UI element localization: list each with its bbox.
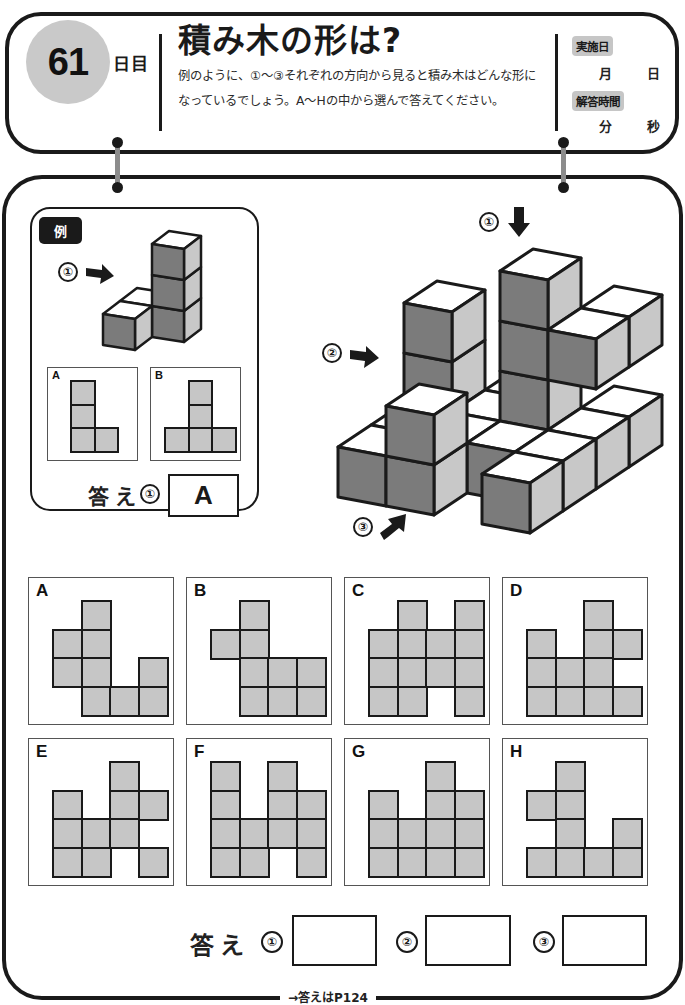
option-b[interactable]: B [186,577,332,725]
grid-cell [368,686,399,717]
grid-cell [52,657,83,688]
grid-cell [612,686,643,717]
answer-marker-2: ② [396,931,418,953]
grid-cell [425,847,456,878]
grid-cell [109,818,140,849]
grid-cell [612,818,643,849]
grid-cell [454,600,485,631]
grid-cell [239,686,270,717]
grid-cell [368,847,399,878]
arrow-down-icon [508,207,530,237]
answer-marker-1: ① [261,931,283,953]
grid-cell [267,818,298,849]
option-label: A [36,581,48,601]
grid-cell [454,657,485,688]
answer-box-3[interactable] [562,915,647,966]
grid-cell [239,657,270,688]
grid-cell [526,629,557,660]
grid-cell [526,790,557,821]
grid-cell [368,657,399,688]
option-f[interactable]: F [186,738,332,886]
grid-cell [52,818,83,849]
option-c[interactable]: C [344,577,490,725]
grid-cell [555,790,586,821]
grid-cell [210,790,241,821]
grid-cell [109,761,140,792]
grid-cell [210,761,241,792]
grid-cell [239,629,270,660]
grid-cell [583,600,614,631]
grid-cell [555,761,586,792]
option-label: B [194,581,206,601]
grid-cell [612,629,643,660]
grid-cell [425,629,456,660]
grid-cell [296,790,327,821]
option-g[interactable]: G [344,738,490,886]
grid-cell [368,790,399,821]
grid-cell [267,657,298,688]
grid-cell [368,818,399,849]
grid-cell [368,629,399,660]
direction-marker-1: ① [479,212,499,232]
grid-cell [454,790,485,821]
grid-cell [526,657,557,688]
answer-box-2[interactable] [425,915,511,966]
grid-cell [296,847,327,878]
grid-cell [454,818,485,849]
grid-cell [239,847,270,878]
grid-cell [138,790,169,821]
option-label: D [510,581,522,601]
grid-cell [296,657,327,688]
arrow-up-right-icon [380,512,408,540]
grid-cell [583,629,614,660]
grid-cell [555,657,586,688]
grid-cell [81,686,112,717]
grid-cell [267,790,298,821]
grid-cell [296,818,327,849]
grid-cell [138,847,169,878]
grid-cell [210,847,241,878]
grid-cell [526,847,557,878]
option-a[interactable]: A [28,577,174,725]
option-e[interactable]: E [28,738,174,886]
grid-cell [425,818,456,849]
grid-cell [52,790,83,821]
grid-cell [239,818,270,849]
answer-marker-3: ③ [533,931,555,953]
grid-cell [526,686,557,717]
answer-page-reference[interactable]: →答えはP124 [280,988,376,1005]
grid-cell [52,629,83,660]
grid-cell [210,818,241,849]
grid-cell [267,686,298,717]
grid-cell [583,686,614,717]
grid-cell [425,657,456,688]
grid-cell [81,818,112,849]
grid-cell [81,600,112,631]
option-label: G [352,742,365,762]
grid-cell [397,657,428,688]
answer-label: 答え [190,926,250,961]
grid-cell [109,790,140,821]
grid-cell [454,686,485,717]
grid-cell [397,818,428,849]
grid-cell [210,629,241,660]
option-label: H [510,742,522,762]
answer-box-1[interactable] [292,915,377,966]
option-d[interactable]: D [502,577,648,725]
grid-cell [612,847,643,878]
grid-cell [397,847,428,878]
grid-cell [555,686,586,717]
grid-cell [81,629,112,660]
grid-cell [138,686,169,717]
grid-cell [555,818,586,849]
grid-cell [425,761,456,792]
option-h[interactable]: H [502,738,648,886]
option-label: E [36,742,47,762]
grid-cell [583,847,614,878]
direction-marker-2: ② [322,343,342,363]
grid-cell [109,686,140,717]
option-label: F [194,742,204,762]
arrow-right-icon [350,344,380,368]
grid-cell [52,847,83,878]
grid-cell [583,657,614,688]
